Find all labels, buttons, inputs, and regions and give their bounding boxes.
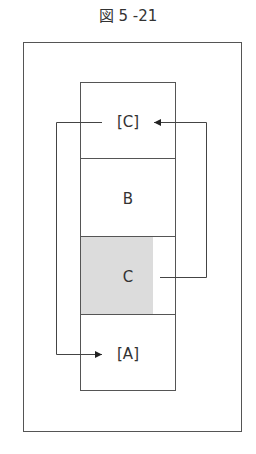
cell-label-copy-a: [A] xyxy=(117,345,139,363)
arrow-c-to-copy-c xyxy=(154,123,207,278)
cell-label-c: C xyxy=(123,268,133,286)
shaded-region xyxy=(81,237,153,314)
cell-label-b: B xyxy=(123,190,133,208)
diagram-canvas xyxy=(0,0,256,454)
cell-label-copy-c: [C] xyxy=(117,113,139,131)
